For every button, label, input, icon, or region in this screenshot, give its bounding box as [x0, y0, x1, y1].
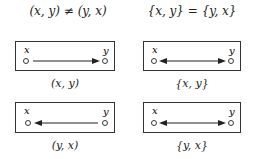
caption-ordered-yx: (y, x): [15, 139, 115, 152]
node-x-circle: [152, 121, 157, 126]
caption-set-xy: {x, y}: [142, 77, 242, 90]
arrow-both-diagram: x y: [144, 42, 242, 72]
node-label-x: x: [152, 44, 158, 55]
panel-set-xy: x y: [143, 41, 241, 71]
node-y-circle: [103, 59, 108, 64]
arrowhead-right-icon: [218, 120, 226, 126]
arrowhead-left-icon: [159, 120, 167, 126]
node-label-y: y: [228, 45, 235, 56]
arrowhead-right-icon: [218, 58, 226, 64]
set-equality-heading: {x, y} = {y, x}: [132, 4, 252, 18]
arrowhead-left-icon: [34, 120, 42, 126]
panel-ordered-xy: x y: [15, 41, 115, 71]
node-x-circle: [26, 121, 31, 126]
node-label-y: y: [102, 106, 109, 117]
node-x-circle: [152, 59, 157, 64]
node-x-circle: [24, 59, 29, 64]
panel-ordered-yx: x y: [15, 102, 115, 133]
node-label-x: x: [24, 105, 30, 116]
node-label-x: x: [24, 44, 30, 55]
arrow-left-diagram: x y: [16, 103, 116, 134]
node-label-y: y: [102, 45, 109, 56]
ordered-pair-inequality-heading: (x, y) ≠ (y, x): [8, 4, 128, 18]
node-label-x: x: [152, 105, 158, 116]
node-y-circle: [229, 59, 234, 64]
node-label-y: y: [228, 106, 235, 117]
arrow-right-diagram: x y: [16, 42, 116, 72]
arrowhead-left-icon: [159, 58, 167, 64]
node-y-circle: [229, 121, 234, 126]
arrow-both-diagram: x y: [144, 103, 242, 134]
arrowhead-right-icon: [92, 58, 100, 64]
node-y-circle: [103, 121, 108, 126]
caption-set-yx: {y, x}: [142, 139, 242, 152]
panel-set-yx: x y: [143, 102, 241, 133]
caption-ordered-xy: (x, y): [15, 77, 115, 90]
